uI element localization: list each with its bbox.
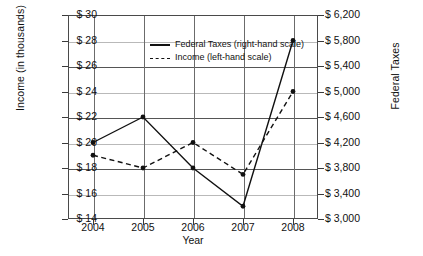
y-axis-left-tick-label: $ 24: [37, 85, 97, 97]
y-axis-right-tick-label: $ 5,800: [325, 34, 395, 46]
y-axis-right-tick-label: $ 5,000: [325, 85, 395, 97]
y-axis-right-tick-label: $ 3,800: [325, 161, 395, 173]
data-point: [91, 153, 96, 158]
y-axis-left-tick-label: $ 30: [37, 8, 97, 20]
data-point: [241, 172, 246, 177]
data-point: [191, 140, 196, 145]
y-axis-left-tick-mark: [62, 168, 68, 169]
y-axis-right-tick-mark: [318, 41, 324, 42]
legend-item-federal-taxes: Federal Taxes (right-hand scale): [150, 38, 304, 51]
y-axis-left-tick-label: $ 20: [37, 136, 97, 148]
y-axis-left-tick-mark: [62, 66, 68, 67]
y-axis-left-tick-label: $ 18: [37, 161, 97, 173]
data-point: [291, 89, 296, 94]
y-axis-right-tick-mark: [318, 117, 324, 118]
y-axis-left-tick-mark: [62, 117, 68, 118]
legend-label-federal-taxes: Federal Taxes (right-hand scale): [175, 38, 304, 51]
chart-legend: Federal Taxes (right-hand scale) Income …: [150, 38, 304, 64]
y-axis-right-tick-label: $ 6,200: [325, 8, 395, 20]
y-axis-right-tick-label: $ 3,400: [325, 187, 395, 199]
y-axis-left-tick-label: $ 28: [37, 34, 97, 46]
y-axis-right-tick-label: $ 4,600: [325, 110, 395, 122]
x-axis-tick-mark: [293, 219, 294, 225]
y-axis-right-tick-mark: [318, 15, 324, 16]
series-line-federal-taxes: [93, 41, 293, 207]
y-axis-right-tick-label: $ 3,000: [325, 212, 395, 224]
y-axis-left-tick-mark: [62, 15, 68, 16]
y-axis-right-tick-mark: [318, 194, 324, 195]
y-axis-right-tick-mark: [318, 92, 324, 93]
x-axis-tick-mark: [243, 219, 244, 225]
y-axis-right-tick-mark: [318, 219, 324, 220]
legend-item-income: Income (left-hand scale): [150, 51, 304, 64]
x-axis-tick-mark: [93, 219, 94, 225]
y-axis-left-tick-mark: [62, 194, 68, 195]
y-axis-left-title: Income (in thousands): [14, 0, 26, 123]
y-axis-left-tick-mark: [62, 143, 68, 144]
legend-label-income: Income (left-hand scale): [175, 51, 272, 64]
data-point: [241, 204, 246, 209]
x-axis-tick-mark: [143, 219, 144, 225]
y-axis-right-tick-mark: [318, 168, 324, 169]
x-axis-title: Year: [68, 234, 318, 246]
y-axis-left-tick-label: $ 16: [37, 187, 97, 199]
series-line-income: [93, 92, 293, 175]
data-point: [191, 166, 196, 171]
y-axis-right-tick-label: $ 5,400: [325, 59, 395, 71]
data-point: [141, 115, 146, 120]
y-axis-left-tick-label: $ 26: [37, 59, 97, 71]
legend-solid-line-icon: [150, 41, 170, 49]
y-axis-right-tick-mark: [318, 143, 324, 144]
y-axis-right-tick-label: $ 4,200: [325, 136, 395, 148]
y-axis-right-tick-mark: [318, 66, 324, 67]
y-axis-left-tick-mark: [62, 92, 68, 93]
legend-dashed-line-icon: [150, 54, 170, 62]
data-point: [141, 166, 146, 171]
chart-figure: Income (in thousands) Federal Taxes Year…: [0, 0, 423, 256]
y-axis-left-tick-label: $ 22: [37, 110, 97, 122]
y-axis-left-tick-mark: [62, 41, 68, 42]
x-axis-tick-mark: [193, 219, 194, 225]
y-axis-left-tick-mark: [62, 219, 68, 220]
